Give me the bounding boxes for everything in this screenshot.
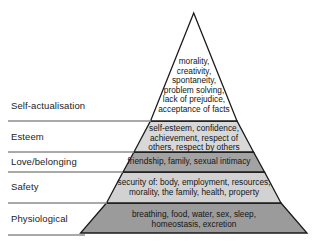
- maslow-pyramid-diagram: Self-actualisation Esteem Love/belonging…: [0, 0, 315, 245]
- tier-label-love-belonging: Love/belonging: [11, 156, 77, 167]
- tier-label-self-actualisation: Self-actualisation: [11, 100, 85, 111]
- tier-description-love-belonging: friendship, family, sexual intimacy: [123, 157, 255, 167]
- tier-description-physiological: breathing, food, water, sex, sleep, home…: [99, 210, 289, 229]
- tier-label-safety: Safety: [11, 181, 39, 192]
- tier-description-safety: security of: body, employment, resources…: [104, 178, 284, 197]
- tier-label-physiological: Physiological: [11, 213, 68, 224]
- tier-description-self-actualisation: morality, creativity, spontaneity, probl…: [134, 57, 254, 115]
- tier-label-esteem: Esteem: [11, 131, 44, 142]
- tier-description-esteem: self-esteem, confidence, achievement, re…: [130, 124, 258, 153]
